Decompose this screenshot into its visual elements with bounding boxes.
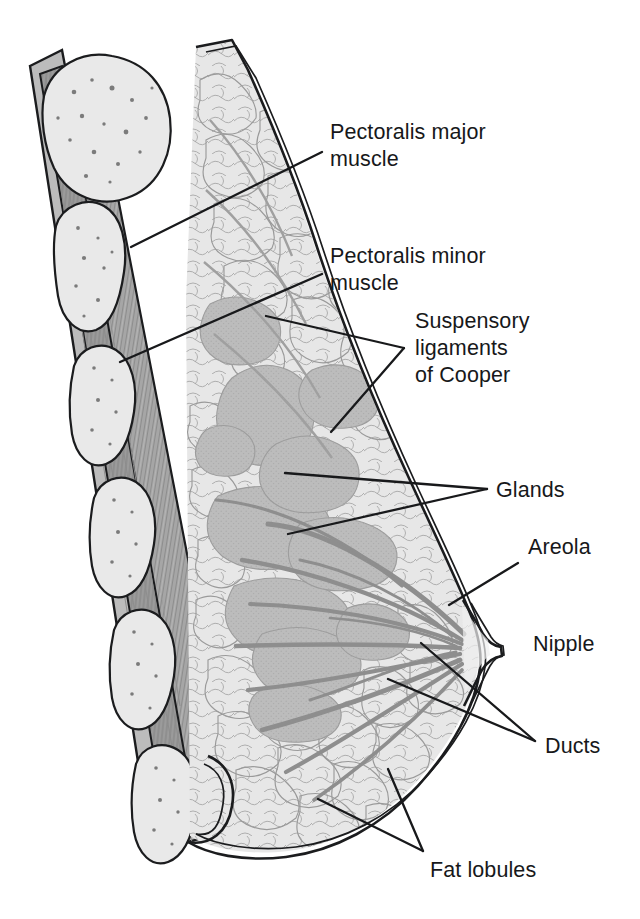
rib (42, 55, 170, 202)
label-nipple: Nipple (533, 632, 595, 656)
gland-lobe (195, 425, 254, 476)
breast-anatomy-diagram: Pectoralis major muscle Pectoralis minor… (0, 0, 640, 919)
figure-canvas: Pectoralis major muscle Pectoralis minor… (0, 0, 640, 919)
label-glands: Glands (496, 478, 565, 502)
label-fat-lobules: Fat lobules (430, 858, 536, 882)
label-areola: Areola (528, 535, 591, 559)
label-ducts: Ducts (545, 734, 600, 758)
